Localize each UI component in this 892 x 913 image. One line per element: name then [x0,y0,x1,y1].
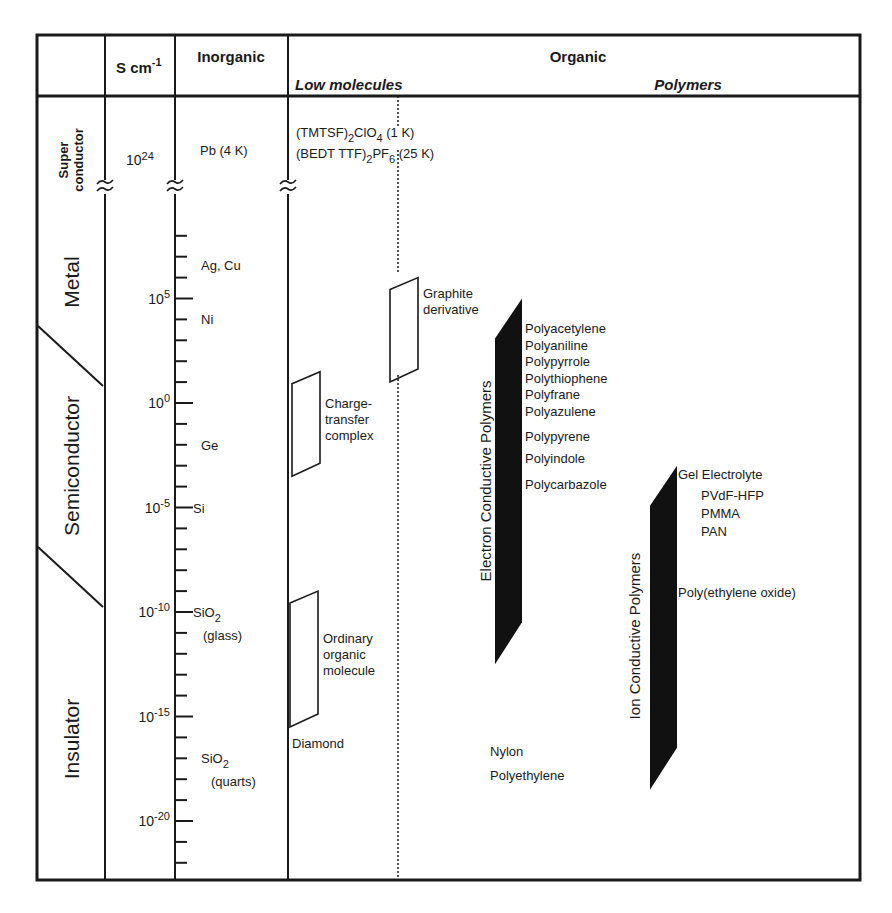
electron-polymer-item: Polyazulene [525,404,596,419]
scale-tick-label: 105 [148,288,170,307]
inorganic-material: Ag, Cu [201,258,241,273]
inorganic-materials: Ag, CuNiGeSiSiO2(glass)SiO2(quarts) [193,258,256,789]
diamond-label: Diamond [292,736,344,751]
electron-polymer-item: Polycarbazole [525,477,607,492]
pb-superconductor: Pb (4 K) [200,143,248,158]
insulator-label: Insulator [60,699,83,780]
gel-electrolyte-title: Gel Electrolyte [678,467,763,482]
polymers-header: Polymers [654,76,722,93]
low-molecules-header: Low molecules [295,76,403,93]
electron-polymer-item: Polyfrane [525,387,580,402]
electron-polymer-item: Polyindole [525,451,585,466]
metal-label: Metal [60,256,83,307]
electron-polymer-item: Polythiophene [525,371,607,386]
inorganic-header: Inorganic [197,48,265,65]
electron-conductive-bar [495,299,522,665]
superconductor-label-line2: conductor [71,128,86,192]
inorganic-material-note: (glass) [203,628,242,643]
scale-tick-label: 10-15 [139,706,170,725]
inorganic-material: Ge [201,438,218,453]
ordinary-organic-label: molecule [323,663,375,678]
insulating-polymer-item: Nylon [490,744,523,759]
inorganic-material: Si [193,501,205,516]
gel-electrolyte-item: PAN [701,524,727,539]
graphite-range [390,278,418,383]
inorganic-material: Ni [201,312,213,327]
electron-polymer-item: Polypyrene [525,429,590,444]
conductivity-diagram: S cm-1 Inorganic Organic Low molecules P… [0,0,892,913]
charge-transfer-range [292,372,320,477]
metal-semiconductor-boundary [38,326,103,386]
ordinary-organic-label: organic [323,647,366,662]
scale-tick-label: 10-20 [139,810,170,829]
graphite-label: Graphite [423,286,473,301]
insulating-polymer-list: NylonPolyethylene [490,744,564,783]
ion-conductive-polymers-title: Ion Conductive Polymers [626,553,643,720]
electron-polymer-item: Polypyrrole [525,354,590,369]
break-mark-icon [167,180,183,191]
low-molecule-superconductors: (TMTSF)2ClO4 (1 K)(BEDT TTF)2PF6 (25 K) [296,125,434,165]
superconductor-scale-value: 1024 [126,150,154,168]
superconductor-compound: (TMTSF)2ClO4 (1 K) [296,125,414,144]
outer-frame [37,35,860,880]
scale-tick-label: 10-10 [139,601,170,620]
inorganic-material: SiO2 [193,605,221,624]
semiconductor-label: Semiconductor [60,396,83,536]
charge-transfer-label: Charge- [325,396,372,411]
scale-tick-label: 100 [148,392,170,411]
electron-polymer-list: PolyacetylenePolyanilinePolypyrrolePolyt… [525,321,607,492]
graphite-label: derivative [423,302,479,317]
ordinary-organic-label: Ordinary [323,631,373,646]
organic-header: Organic [550,48,607,65]
semiconductor-insulator-boundary [38,547,103,607]
gel-electrolyte-item: PVdF-HFP [701,488,764,503]
log-scale-ticks [176,236,193,863]
low-molecule-ranges: GraphitederivativeCharge-transfercomplex… [290,278,479,727]
break-mark-icon [97,180,113,191]
electron-polymer-item: Polyaniline [525,338,588,353]
ion-polymer-list: Gel ElectrolytePVdF-HFPPMMAPANPoly(ethyl… [678,467,796,600]
charge-transfer-label: transfer [325,412,370,427]
gel-electrolyte-item: PMMA [701,506,740,521]
unit-header: S cm-1 [116,56,162,76]
electron-conductive-polymers-title: Electron Conductive Polymers [477,381,494,582]
ion-conductive-bar [650,466,677,790]
charge-transfer-label: complex [325,428,374,443]
break-mark-icon [280,180,296,191]
scale-tick-label: 10-5 [145,497,170,516]
insulating-polymer-item: Polyethylene [490,768,564,783]
inorganic-material-note: (quarts) [211,774,256,789]
peo-label: Poly(ethylene oxide) [678,585,796,600]
inorganic-material: SiO2 [201,751,229,770]
superconductor-label-line1: Super [56,142,71,179]
electron-polymer-item: Polyacetylene [525,321,606,336]
ordinary-organic-range [290,591,318,727]
superconductor-compound: (BEDT TTF)2PF6 (25 K) [296,146,434,165]
log-scale-labels: 10510010-510-1010-1510-20 [139,288,170,830]
